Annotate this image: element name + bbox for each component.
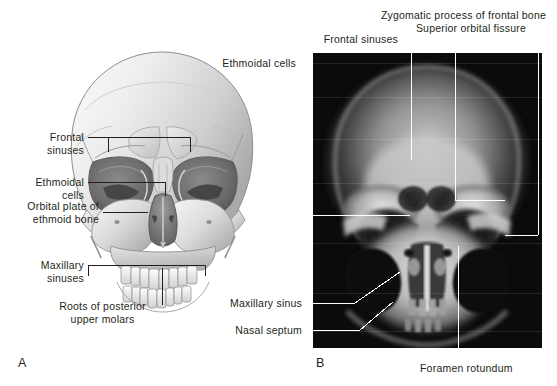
panel-letter-a: A [18,356,26,370]
skull-radiograph [313,53,542,348]
label-superior-orbital-fissure: Superior orbital fissure [380,22,526,35]
label-maxillary-sinus: Maxillary sinus [198,297,302,310]
label-frontal-sinuses-left: Frontal sinuses [0,131,84,156]
skull-drawing [55,50,270,315]
label-ethmoidal-cells-left: Ethmoidal cells [0,176,84,201]
label-nasal-septum: Nasal septum [210,324,302,337]
label-foramen-rotundum: Foramen rotundum [420,362,550,375]
label-frontal-sinuses-top: Frontal sinuses [300,33,398,46]
label-ethmoidal-cells-top: Ethmoidal cells [200,57,296,70]
skull-illustration [55,50,270,315]
figure-caption-cropped [18,376,538,385]
anatomy-figure: Frontal sinuses Ethmoidal cells Orbital … [0,0,557,386]
label-orbital-plate-ethmoid-bone: Orbital plate of ethmoid bone [0,200,99,225]
label-maxillary-sinuses-left: Maxillary sinuses [0,259,84,284]
label-zygomatic-process-frontal-bone: Zygomatic process of frontal bone [330,9,546,22]
panel-letter-b: B [316,356,324,370]
label-roots-posterior-upper-molars: Roots of posterior upper molars [35,300,170,325]
radiograph-image [313,53,542,348]
